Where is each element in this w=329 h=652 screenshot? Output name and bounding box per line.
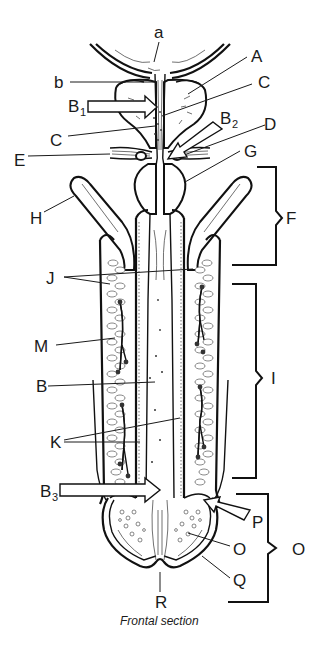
label-B1-subscript: 1 — [80, 106, 86, 118]
label-B1: B — [68, 97, 79, 116]
deep-arteries — [116, 285, 207, 479]
label-F: F — [286, 209, 296, 228]
label-R: R — [155, 593, 167, 612]
label-b: b — [54, 73, 63, 92]
label-B3-subscript: 3 — [52, 491, 58, 503]
label-B: B — [36, 377, 47, 396]
label-A: A — [251, 47, 263, 66]
bracket-I — [232, 284, 262, 478]
label-D: D — [264, 115, 276, 134]
urogenital-diaphragm — [110, 148, 210, 161]
anatomy-diagram: a A b C B 1 B 2 C D E G H F J M I B K B … — [0, 0, 329, 652]
label-a: a — [154, 23, 164, 42]
label-O-bracket: O — [292, 540, 305, 559]
label-J: J — [46, 269, 55, 288]
label-C-upper: C — [258, 73, 270, 92]
label-Q: Q — [233, 571, 246, 590]
arrow-B3 — [60, 478, 160, 502]
labels: a A b C B 1 B 2 C D E G H F J M I B K B … — [14, 23, 305, 628]
label-P: P — [252, 513, 263, 532]
label-C-lower: C — [50, 131, 62, 150]
label-G: G — [244, 142, 257, 161]
bladder — [90, 44, 230, 78]
crura — [70, 177, 251, 270]
label-E: E — [14, 151, 25, 170]
label-M: M — [34, 337, 48, 356]
label-I: I — [271, 369, 276, 388]
label-B2-subscript: 2 — [232, 118, 238, 130]
label-B2: B — [220, 109, 231, 128]
label-B3: B — [40, 482, 51, 501]
label-O-inner: O — [233, 540, 246, 559]
caption: Frontal section — [120, 614, 199, 628]
glans — [103, 494, 218, 567]
label-H: H — [30, 209, 42, 228]
bulb — [135, 164, 186, 214]
glans-tissue-dots — [119, 510, 202, 542]
label-K: K — [50, 433, 62, 452]
